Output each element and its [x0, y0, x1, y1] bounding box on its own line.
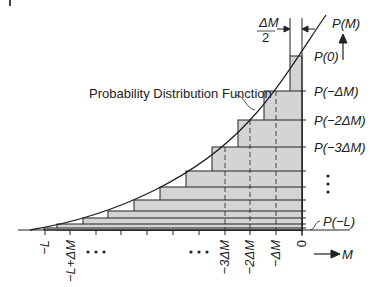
- tick-label-minus-3dm: −3ΔM: [217, 240, 232, 275]
- half-step-numerator: ΔM: [258, 15, 279, 30]
- x-axis-label: M: [342, 247, 353, 262]
- ellipsis-right-icon: [189, 250, 208, 253]
- tick-label-minus-l-plus-dm: −L+ΔM: [63, 240, 78, 282]
- step-level-lines: [302, 91, 306, 228]
- half-step-denominator: 2: [262, 30, 269, 45]
- ellipsis-left-icon: [86, 250, 105, 253]
- tick-label-minus-2dm: −2ΔM: [242, 240, 257, 275]
- step-label-p-2dm: P(−2ΔM): [314, 113, 366, 128]
- tick-label-minus-dm: −ΔM: [268, 240, 283, 267]
- step-label-p0: P(0): [314, 49, 339, 64]
- corner-mark: [9, 0, 11, 6]
- x-axis-arrow: [314, 250, 340, 258]
- half-step-arrows: [277, 26, 315, 32]
- y-axis-arrow: [339, 34, 347, 60]
- step-bars: [44, 56, 302, 230]
- step-label-p-3dm: P(−3ΔM): [314, 140, 366, 155]
- p-minus-l-leader: [310, 221, 320, 230]
- pdf-staircase-diagram: Probability Distribution Function ΔM 2 P…: [0, 0, 371, 287]
- curve-label: Probability Distribution Function: [89, 86, 272, 101]
- tick-label-minus-l: −L: [37, 240, 52, 255]
- vertical-ellipsis-icon: [326, 174, 329, 193]
- x-ticks: [45, 230, 302, 235]
- y-axis-label: P(M): [332, 16, 360, 31]
- step-label-p-dm: P(−ΔM): [314, 84, 358, 99]
- step-label-p-minus-l: P(−L): [323, 214, 355, 229]
- tick-label-zero: 0: [294, 240, 309, 247]
